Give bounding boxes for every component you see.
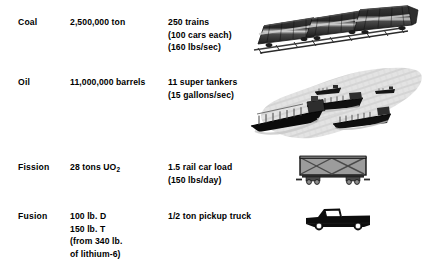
equivalent-coal: 250 trains (100 cars each) (160 lbs/sec) xyxy=(168,16,232,54)
table-row-fusion: Fusion 100 lb. D 150 lb. T (from 340 lb.… xyxy=(0,197,425,267)
equivalent-coal-line1: 250 trains xyxy=(168,16,232,29)
fuel-amount-fusion-line2: 150 lb. T xyxy=(70,223,122,236)
equivalent-fission-line1: 1.5 rail car load xyxy=(168,161,232,174)
figure-canvas: Coal 2,500,000 ton 250 trains (100 cars … xyxy=(0,0,425,267)
table-row-fission: Fission 28 tons UO2 1.5 rail car load (1… xyxy=(0,147,425,197)
equivalent-coal-line2: (100 cars each) xyxy=(168,29,232,42)
equivalent-fission-line2: (150 lbs/day) xyxy=(168,174,232,187)
table-row-coal: Coal 2,500,000 ton 250 trains (100 cars … xyxy=(0,0,425,62)
fuel-amount-oil: 11,000,000 barrels xyxy=(70,76,145,89)
fuel-amount-oil-line1: 11,000,000 barrels xyxy=(70,76,145,89)
fuel-amount-fission: 28 tons UO2 xyxy=(70,161,120,175)
fuel-amount-fission-line1: 28 tons UO2 xyxy=(70,161,120,175)
rail-car-body xyxy=(300,156,366,175)
equivalent-coal-line3: (160 lbs/sec) xyxy=(168,41,232,54)
source-label-coal: Coal xyxy=(18,16,37,29)
equivalent-fission: 1.5 rail car load (150 lbs/day) xyxy=(168,161,232,186)
fission-amount-subscript: 2 xyxy=(116,166,120,173)
source-label-fission: Fission xyxy=(18,161,49,174)
equivalent-oil-line1: 11 super tankers xyxy=(168,76,237,89)
fission-amount-text: 28 tons UO xyxy=(70,162,116,172)
rail-car-undercarriage xyxy=(296,175,370,184)
fuel-amount-fusion-line4: of lithium-6) xyxy=(70,248,122,261)
table-row-oil: Oil 11,000,000 barrels 11 super tankers … xyxy=(0,62,425,147)
equivalent-fusion: 1/2 ton pickup truck xyxy=(168,210,251,223)
fuel-amount-fusion-line1: 100 lb. D xyxy=(70,210,122,223)
oil-supertankers-illustration xyxy=(245,60,425,152)
equivalent-fusion-line1: 1/2 ton pickup truck xyxy=(168,210,251,223)
fuel-amount-fusion: 100 lb. D 150 lb. T (from 340 lb. of lit… xyxy=(70,210,122,260)
equivalent-oil: 11 super tankers (15 gallons/sec) xyxy=(168,76,237,101)
coal-trains-illustration xyxy=(252,4,420,56)
fusion-pickup-truck-illustration xyxy=(300,204,376,236)
equivalent-oil-line2: (15 gallons/sec) xyxy=(168,89,237,102)
fission-rail-car-illustration xyxy=(296,154,376,188)
source-label-oil: Oil xyxy=(18,76,30,89)
fuel-amount-coal-line1: 2,500,000 ton xyxy=(70,16,125,29)
source-label-fusion: Fusion xyxy=(18,210,47,223)
fuel-amount-coal: 2,500,000 ton xyxy=(70,16,125,29)
fuel-amount-fusion-line3: (from 340 lb. xyxy=(70,235,122,248)
